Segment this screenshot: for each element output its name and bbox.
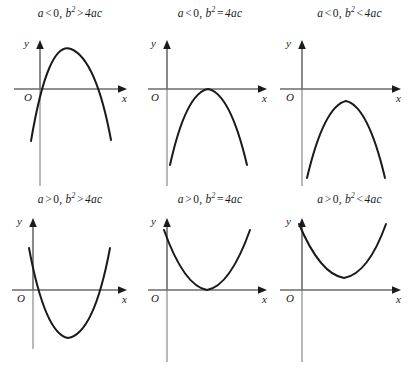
parabola-curve — [29, 248, 110, 338]
panel-a-neg-disc-neg: a<0, b2<4ac y x O — [280, 0, 419, 186]
y-axis-label: y — [24, 37, 29, 49]
y-axis-arrow-icon — [298, 40, 306, 49]
origin-label: O — [24, 91, 32, 103]
parabola-case-figure: a<0, b2>4ac y x O a<0, b2=4ac y x O — [0, 0, 419, 372]
plot-area — [140, 0, 280, 186]
parabola-curve — [164, 230, 250, 290]
y-axis-arrow-icon — [163, 40, 171, 49]
x-axis-label: x — [122, 92, 127, 104]
y-axis-label: y — [286, 37, 291, 49]
y-axis-arrow-icon — [163, 218, 171, 227]
panel-a-pos-disc-neg: a>0, b2<4ac y x O — [280, 186, 419, 372]
x-axis-label: x — [396, 92, 401, 104]
origin-label: O — [151, 91, 159, 103]
plot-area — [0, 0, 140, 186]
origin-label: O — [286, 292, 294, 304]
panel-a-pos-disc-zero: a>0, b2=4ac y x O — [140, 186, 280, 372]
x-axis-label: x — [396, 293, 401, 305]
parabola-curve — [170, 89, 247, 165]
x-axis-label: x — [122, 293, 127, 305]
panel-a-neg-disc-zero: a<0, b2=4ac y x O — [140, 0, 280, 186]
origin-label: O — [286, 91, 294, 103]
x-axis-label: x — [262, 92, 267, 104]
y-axis-arrow-icon — [29, 218, 37, 227]
y-axis-label: y — [151, 215, 156, 227]
origin-label: O — [17, 292, 25, 304]
y-axis-label: y — [286, 215, 291, 227]
plot-area — [0, 186, 140, 372]
parabola-curve — [299, 224, 386, 278]
panel-a-pos-disc-pos: a>0, b2>4ac y x O — [0, 186, 140, 372]
parabola-curve — [31, 48, 111, 141]
plot-area — [280, 186, 419, 372]
y-axis-arrow-icon — [36, 40, 44, 49]
x-axis-label: x — [262, 293, 267, 305]
panel-a-neg-disc-pos: a<0, b2>4ac y x O — [0, 0, 140, 186]
y-axis-label: y — [17, 215, 22, 227]
y-axis-label: y — [151, 37, 156, 49]
origin-label: O — [151, 292, 159, 304]
parabola-curve — [307, 101, 385, 178]
plot-area — [140, 186, 280, 372]
